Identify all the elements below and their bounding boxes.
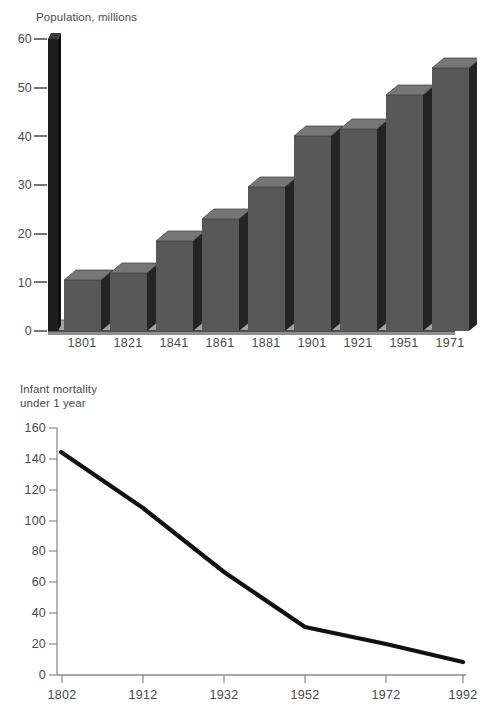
- bar-1921: [340, 119, 389, 331]
- mortality-line: [61, 452, 463, 662]
- line-xtick-1932: 1932: [198, 688, 250, 702]
- bar-series: [64, 58, 477, 331]
- bar-1861: [202, 209, 251, 331]
- bar-1841: [156, 231, 205, 331]
- line-xtick-1952: 1952: [279, 688, 331, 702]
- bar-1881: [248, 177, 297, 331]
- line-xtick-1992: 1992: [437, 688, 482, 702]
- line-chart-plot: [0, 370, 477, 709]
- bar-xtick-1821: 1821: [102, 336, 154, 350]
- population-bar-chart: Population, millions 60 50 40 30 20 10 0: [0, 0, 477, 360]
- bar-xtick-1901: 1901: [286, 336, 338, 350]
- bar-ytick-marks: [34, 39, 47, 331]
- bar-1971: [432, 58, 477, 331]
- bar-xtick-1951: 1951: [378, 336, 430, 350]
- bar-xtick-1971: 1971: [424, 336, 476, 350]
- bar-xtick-1841: 1841: [148, 336, 200, 350]
- bar-xtick-1801: 1801: [56, 336, 108, 350]
- bar-1801: [64, 270, 113, 331]
- line-ytick-marks: [49, 428, 57, 675]
- bar-xtick-1881: 1881: [240, 336, 292, 350]
- line-xtick-1912: 1912: [117, 688, 169, 702]
- infant-mortality-line-chart: Infant mortality under 1 year 160 140 12…: [0, 370, 477, 709]
- bar-1821: [110, 263, 159, 331]
- bar-xtick-1861: 1861: [194, 336, 246, 350]
- line-xtick-1972: 1972: [360, 688, 412, 702]
- bar-1951: [386, 85, 435, 331]
- bar-1901: [294, 126, 343, 331]
- line-chart-axes: [57, 428, 466, 675]
- bar-chart-plot: [0, 0, 477, 360]
- bar-xtick-1921: 1921: [332, 336, 384, 350]
- line-xtick-marks: [62, 675, 463, 683]
- line-xtick-1802: 1802: [36, 688, 88, 702]
- bar-chart-y-axis: [48, 33, 61, 331]
